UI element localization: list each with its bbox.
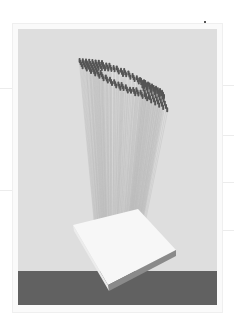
pin	[90, 69, 92, 74]
pin	[122, 72, 124, 77]
pin	[104, 66, 106, 71]
pin	[103, 76, 105, 81]
margin-guide-line	[222, 135, 234, 136]
pin	[154, 101, 156, 106]
pin	[134, 77, 136, 82]
margin-guide-line	[222, 85, 234, 86]
pin	[129, 75, 131, 80]
pin	[98, 74, 100, 79]
pin	[125, 72, 127, 77]
base-slab-top	[73, 209, 176, 285]
pin	[94, 71, 96, 76]
pin	[110, 67, 112, 72]
margin-guide-line	[0, 88, 12, 89]
pin	[150, 98, 152, 103]
pin	[158, 103, 160, 108]
pin	[118, 70, 120, 75]
pin	[119, 86, 121, 91]
pin	[130, 89, 132, 94]
pin	[162, 105, 164, 110]
pin	[166, 107, 168, 112]
pin	[111, 81, 113, 86]
pin	[134, 91, 136, 96]
pin	[107, 79, 109, 84]
pin	[123, 86, 125, 91]
poster-image: ebvf	[18, 29, 217, 305]
pin	[146, 96, 148, 101]
sculpture-illustration	[18, 29, 217, 305]
pin	[138, 80, 140, 85]
pin	[137, 92, 139, 97]
pin	[142, 94, 144, 99]
margin-guide-line	[222, 230, 234, 231]
pin	[107, 67, 109, 72]
pin	[115, 83, 117, 88]
pin	[86, 67, 88, 72]
margin-guide-line	[222, 182, 234, 183]
pin	[127, 89, 129, 94]
pin	[114, 67, 116, 72]
pin	[82, 64, 84, 69]
margin-guide-line	[0, 190, 12, 191]
